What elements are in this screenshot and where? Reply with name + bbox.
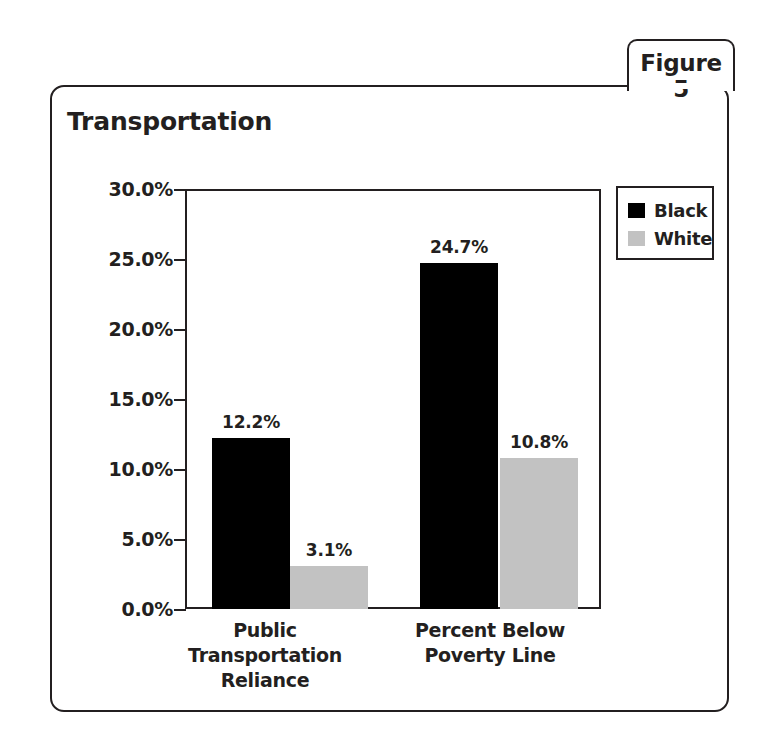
bars-layer: 12.2%3.1%24.7%10.8% — [185, 189, 601, 609]
y-axis-tick-label: 5.0% — [85, 528, 173, 550]
bar-pt-black[interactable] — [212, 438, 290, 609]
bar-pt-white[interactable] — [290, 566, 368, 609]
y-axis-tick-label: 15.0% — [85, 388, 173, 410]
legend-black-label: Black — [654, 200, 707, 221]
tab-card-joint — [632, 83, 731, 89]
bar-value-label-pt-white: 3.1% — [276, 540, 382, 560]
legend-item-white[interactable]: White — [628, 224, 712, 252]
chart-legend: Black White — [616, 186, 714, 260]
bar-value-label-pv-black: 24.7% — [406, 237, 512, 257]
bar-value-label-pt-black: 12.2% — [198, 412, 304, 432]
legend-black-swatch-icon — [628, 203, 645, 218]
y-axis-tick-label: 30.0% — [85, 178, 173, 200]
y-axis-tick-label: 25.0% — [85, 248, 173, 270]
figure-number-label: Figure 5 — [629, 50, 733, 102]
legend-white-swatch-icon — [628, 231, 645, 246]
x-axis-category-label: Public TransportationReliance — [175, 618, 355, 693]
category-label-line1: Percent Below — [400, 618, 580, 643]
y-axis-tick-label: 0.0% — [85, 598, 173, 620]
legend-white-label: White — [654, 228, 712, 249]
y-axis-tick-mark — [174, 609, 186, 611]
category-label-line2: Poverty Line — [400, 643, 580, 668]
y-axis-tick-labels: 30.0%25.0%20.0%15.0%10.0%5.0%0.0% — [85, 189, 173, 609]
bar-pv-white[interactable] — [500, 458, 578, 609]
y-axis-tick-label: 10.0% — [85, 458, 173, 480]
category-label-line2: Reliance — [175, 668, 355, 693]
x-axis-category-label: Percent BelowPoverty Line — [400, 618, 580, 668]
x-axis-category-labels: Public TransportationReliancePercent Bel… — [185, 618, 601, 688]
y-axis-tick-label: 20.0% — [85, 318, 173, 340]
chart-title: Transportation — [67, 107, 272, 136]
bar-value-label-pv-white: 10.8% — [486, 432, 592, 452]
category-label-line1: Public Transportation — [175, 618, 355, 668]
legend-item-black[interactable]: Black — [628, 196, 712, 224]
